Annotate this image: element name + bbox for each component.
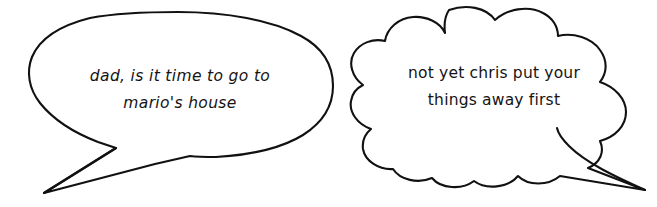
right-bubble-line-1: not yet chris put your <box>408 64 580 82</box>
right-bubble-line-2: things away first <box>428 91 560 109</box>
right-thought-cloud-bubble: not yet chris put your things away first <box>351 7 645 190</box>
left-bubble-line-2: mario's house <box>123 94 236 112</box>
left-bubble-line-1: dad, is it time to go to <box>90 67 270 85</box>
left-speech-bubble: dad, is it time to go to mario's house <box>29 12 333 193</box>
comic-dialogue-scene: dad, is it time to go to mario's house n… <box>0 0 657 207</box>
